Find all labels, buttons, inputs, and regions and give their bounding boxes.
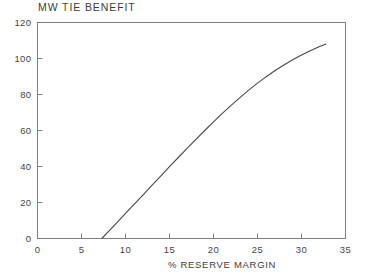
y-tick-label: 60 [20,125,31,136]
x-axis-tick-labels: 05101520253035 [35,244,352,255]
x-tick-label: 30 [296,244,307,255]
y-tick-label: 0 [26,233,32,244]
y-tick-label: 100 [14,53,31,64]
y-axis-tick-labels: 020406080100120 [14,17,31,244]
y-axis-ticks [38,59,43,203]
x-tick-label: 35 [340,244,351,255]
x-tick-label: 25 [252,244,263,255]
y-tick-label: 20 [20,197,31,208]
x-axis-title: % RESERVE MARGIN [168,259,276,270]
x-tick-label: 20 [208,244,219,255]
plot-area: 020406080100120 05101520253035 [0,0,370,278]
x-tick-label: 0 [35,244,41,255]
plot-frame [38,23,346,239]
y-tick-label: 40 [20,161,31,172]
x-axis-ticks [82,234,302,239]
x-tick-label: 15 [164,244,175,255]
y-tick-label: 120 [14,17,31,28]
data-series-line [102,44,326,238]
chart-container: MW TIE BENEFIT 020406080100120 051015202… [0,0,370,278]
x-tick-label: 10 [120,244,131,255]
x-tick-label: 5 [79,244,85,255]
y-tick-label: 80 [20,89,31,100]
